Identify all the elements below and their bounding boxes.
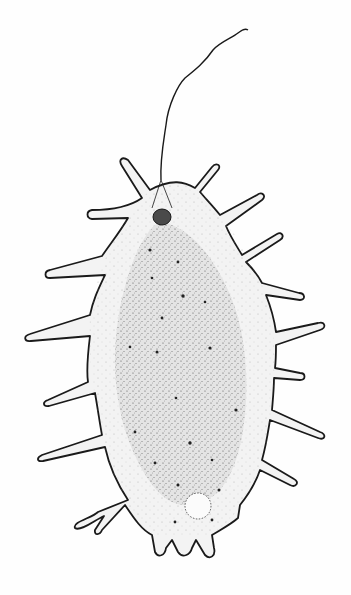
flagellum [161, 29, 248, 180]
illustration-canvas [0, 0, 351, 595]
contractile-vacuole [185, 493, 211, 519]
cell-drawing [0, 0, 351, 595]
nucleus [153, 209, 171, 225]
